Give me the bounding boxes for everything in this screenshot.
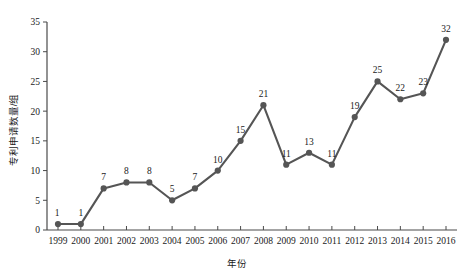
y-tick-label-15: 15	[31, 136, 41, 146]
data-point-2007	[237, 138, 243, 144]
y-tick-label-20: 20	[31, 107, 41, 117]
x-tick-label-2000: 2000	[71, 236, 90, 246]
y-tick-label-25: 25	[31, 77, 41, 87]
data-point-1999	[55, 221, 61, 227]
data-label-2004: 5	[170, 184, 175, 194]
data-point-2000	[78, 221, 84, 227]
data-point-2004	[169, 197, 175, 203]
x-tick-label-2013: 2013	[368, 236, 387, 246]
x-tick-label-2014: 2014	[391, 236, 410, 246]
x-tick-label-2002: 2002	[117, 236, 136, 246]
x-tick-label-2006: 2006	[208, 236, 227, 246]
x-axis-title: 年份	[227, 258, 247, 269]
data-label-2009: 11	[282, 149, 291, 159]
data-label-2008: 21	[259, 89, 269, 99]
data-point-2001	[101, 185, 107, 191]
data-point-2012	[352, 114, 358, 120]
data-point-2014	[397, 96, 403, 102]
data-point-2003	[146, 179, 152, 185]
data-label-2005: 7	[193, 172, 198, 182]
data-point-2010	[306, 150, 312, 156]
data-label-2001: 7	[101, 172, 106, 182]
data-label-2011: 11	[327, 149, 336, 159]
x-tick-label-2010: 2010	[300, 236, 319, 246]
data-label-2006: 10	[213, 155, 223, 165]
data-label-2016: 32	[441, 24, 451, 34]
data-label-2012: 19	[350, 101, 360, 111]
x-tick-label-2012: 2012	[345, 236, 364, 246]
data-label-2015: 23	[418, 77, 428, 87]
x-tick-label-2001: 2001	[94, 236, 113, 246]
x-tick-label-2015: 2015	[414, 236, 433, 246]
data-label-2000: 1	[78, 208, 83, 218]
x-tick-label-2009: 2009	[277, 236, 296, 246]
data-point-2015	[420, 90, 426, 96]
data-label-2010: 13	[304, 137, 314, 147]
data-point-2009	[283, 162, 289, 168]
y-tick-label-10: 10	[31, 166, 41, 176]
data-point-2013	[374, 78, 380, 84]
data-point-2002	[123, 179, 129, 185]
y-tick-label-0: 0	[35, 225, 40, 235]
y-axis-title: 专利申请数量/组	[8, 94, 19, 167]
x-tick-label-2005: 2005	[185, 236, 204, 246]
data-label-2013: 25	[373, 65, 383, 75]
data-label-1999: 1	[55, 208, 60, 218]
data-label-2002: 8	[124, 166, 129, 176]
y-tick-label-5: 5	[35, 196, 40, 206]
data-label-2003: 8	[147, 166, 152, 176]
x-tick-label-2004: 2004	[163, 236, 182, 246]
data-label-2007: 15	[236, 125, 246, 135]
x-tick-label-1999: 1999	[49, 236, 68, 246]
x-tick-label-2011: 2011	[323, 236, 342, 246]
x-tick-label-2016: 2016	[437, 236, 456, 246]
x-tick-label-2007: 2007	[231, 236, 250, 246]
data-point-2008	[260, 102, 266, 108]
data-point-2005	[192, 185, 198, 191]
y-tick-label-30: 30	[31, 47, 41, 57]
x-tick-label-2008: 2008	[254, 236, 273, 246]
y-tick-label-35: 35	[31, 17, 41, 27]
data-point-2016	[443, 37, 449, 43]
data-label-2014: 22	[396, 83, 406, 93]
data-point-2011	[329, 162, 335, 168]
patent-application-line-chart: 05101520253035 1999200020012002200320042…	[0, 0, 474, 280]
x-tick-label-2003: 2003	[140, 236, 159, 246]
chart-canvas: 05101520253035 1999200020012002200320042…	[0, 0, 474, 280]
data-point-2006	[215, 167, 221, 173]
